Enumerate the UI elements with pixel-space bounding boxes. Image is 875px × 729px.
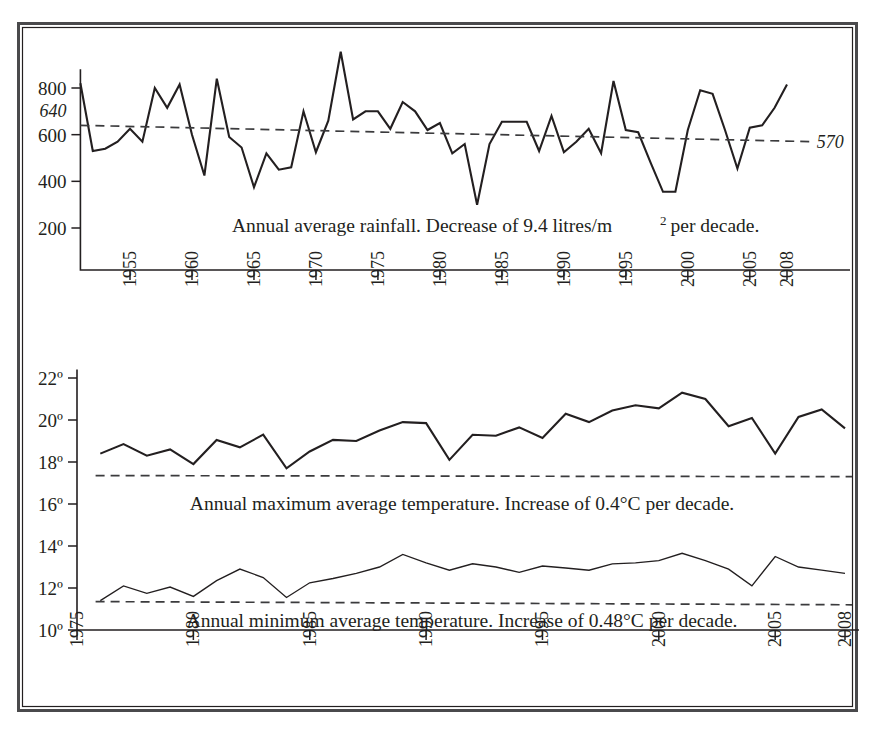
temperature-x-tick-2008: 2008 [835, 611, 855, 647]
max-temperature-series-line [100, 393, 845, 469]
rainfall-y-tick-800: 800 [38, 78, 67, 99]
rainfall-trend-end-label: 570 [817, 132, 844, 152]
temperature-y-tick-14: 14º [38, 536, 63, 557]
temperature-y-tick-labels: 10º12º14º16º18º20º22º [38, 368, 63, 641]
rainfall-x-tick-2008: 2008 [777, 251, 797, 287]
rainfall-x-tick-1960: 1960 [182, 251, 202, 287]
rainfall-x-tick-2005: 2005 [740, 251, 760, 287]
rainfall-x-tick-1995: 1995 [616, 251, 636, 287]
rainfall-640-label: 640 [39, 101, 66, 121]
rainfall-x-tick-labels: 1955196019651970197519801985199019952000… [120, 251, 797, 287]
temperature-y-tick-16: 16º [38, 494, 63, 515]
max-temperature-baseline [96, 476, 852, 477]
rainfall-y-tick-600: 600 [38, 125, 67, 146]
rainfall-x-tick-1965: 1965 [244, 251, 264, 287]
temperature-y-tick-12: 12º [38, 578, 63, 599]
rainfall-y-tick-400: 400 [38, 171, 67, 192]
climate-figure: 200400600800 195519601965197019751980198… [0, 0, 875, 729]
rainfall-x-tick-1955: 1955 [120, 251, 140, 287]
temperature-y-tick-22: 22º [38, 368, 63, 389]
rainfall-chart: 200400600800 195519601965197019751980198… [38, 52, 850, 287]
rainfall-x-tick-2000: 2000 [678, 251, 698, 287]
climate-figure-svg: 200400600800 195519601965197019751980198… [0, 0, 875, 729]
rainfall-x-tick-1980: 1980 [430, 251, 450, 287]
rainfall-annotation: Annual average rainfall. Decrease of 9.4… [232, 213, 759, 236]
temperature-y-tick-18: 18º [38, 452, 63, 473]
min-temperature-series-line [100, 553, 845, 600]
temperature-x-tick-1975: 1975 [67, 611, 87, 647]
rainfall-axes [71, 69, 850, 280]
temperature-y-tick-10: 10º [38, 620, 63, 641]
rainfall-y-tick-200: 200 [38, 218, 67, 239]
rainfall-x-tick-1970: 1970 [306, 251, 326, 287]
rainfall-x-tick-1975: 1975 [368, 251, 388, 287]
max-temperature-annotation: Annual maximum average temperature. Incr… [190, 493, 734, 514]
min-temperature-annotation: Annual minimum average temperature. Incr… [187, 610, 738, 631]
rainfall-x-tick-1990: 1990 [554, 251, 574, 287]
rainfall-x-tick-1985: 1985 [492, 251, 512, 287]
temperature-chart: 10º12º14º16º18º20º22º 197519801985199019… [38, 368, 859, 647]
temperature-y-tick-20: 20º [38, 410, 63, 431]
min-temperature-baseline [96, 602, 852, 605]
temperature-x-tick-2005: 2005 [765, 611, 785, 647]
